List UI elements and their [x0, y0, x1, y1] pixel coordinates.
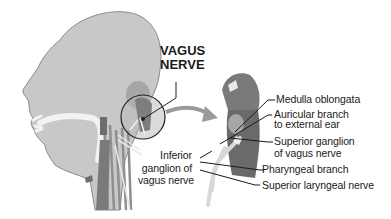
- title-vagus: VAGUS: [160, 44, 205, 58]
- label-inferior-ganglion-3: vagus nerve: [132, 175, 194, 186]
- label-inferior-ganglion-1: Inferior: [150, 150, 192, 161]
- label-superior-laryngeal-nerve: Superior laryngeal nerve: [262, 180, 374, 191]
- label-medulla-oblongata: Medulla oblongata: [276, 94, 360, 105]
- label-superior-ganglion-1: Superior ganglion: [274, 136, 355, 147]
- label-inferior-ganglion-2: ganglion of: [132, 163, 192, 174]
- zoom-arrow-head: [202, 106, 218, 122]
- larynx: [100, 117, 107, 135]
- zoom-arrow: [166, 108, 210, 115]
- vagus-nerve-diagram: VAGUS NERVE Medulla oblongata Auricular …: [0, 0, 391, 219]
- label-superior-ganglion-2: of vagus nerve: [274, 148, 341, 159]
- label-pharyngeal-branch: Pharyngeal branch: [262, 164, 348, 175]
- title-nerve: NERVE: [160, 58, 205, 72]
- label-auricular-branch-2: to external ear: [274, 119, 340, 130]
